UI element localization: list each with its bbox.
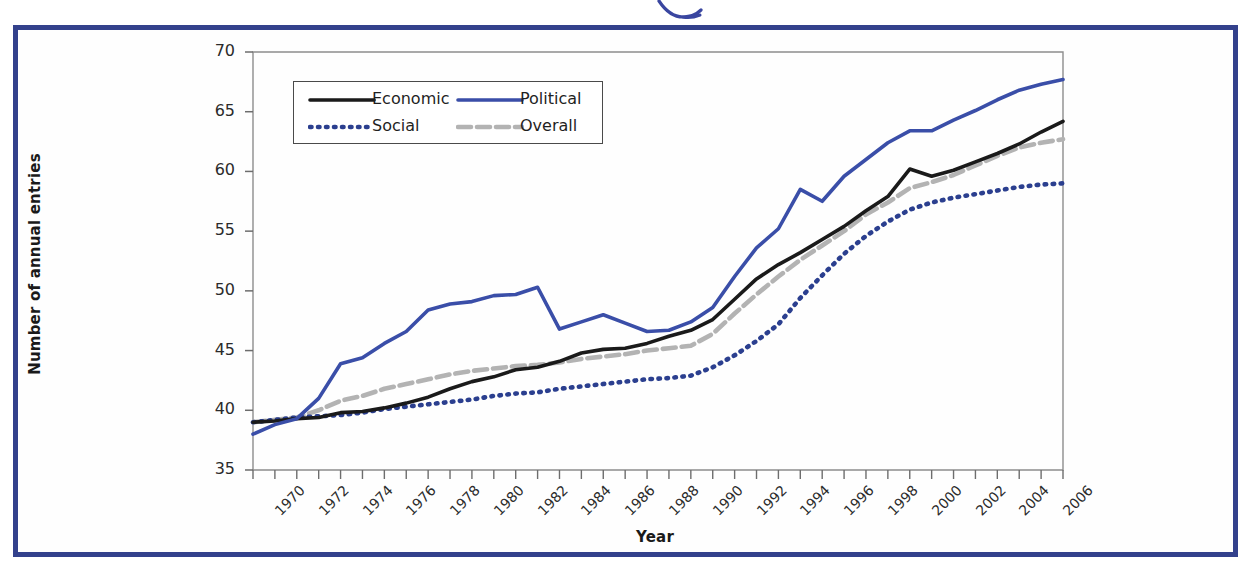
legend-swatch-social [308, 119, 376, 135]
line-chart: Number of annual entries Year 3540455055… [0, 0, 1251, 571]
y-tick-label: 45 [195, 340, 235, 359]
legend-label-economic: Economic [372, 89, 449, 108]
y-axis-title: Number of annual entries [26, 134, 44, 394]
y-tick-label: 35 [195, 459, 235, 478]
x-axis-title: Year [595, 528, 715, 546]
legend-swatch-political [456, 92, 524, 108]
legend-label-social: Social [372, 116, 419, 135]
y-tick-label: 40 [195, 399, 235, 418]
plot-canvas [0, 0, 1251, 571]
legend-swatch-overall [456, 119, 524, 135]
series-line-social [253, 183, 1063, 422]
y-tick-label: 55 [195, 220, 235, 239]
y-tick-label: 70 [195, 41, 235, 60]
chart-legend: EconomicPoliticalSocialOverall [293, 81, 603, 144]
legend-label-overall: Overall [520, 116, 577, 135]
legend-label-political: Political [520, 89, 582, 108]
y-tick-label: 65 [195, 101, 235, 120]
y-tick-label: 50 [195, 280, 235, 299]
y-tick-label: 60 [195, 160, 235, 179]
legend-swatch-economic [308, 92, 376, 108]
